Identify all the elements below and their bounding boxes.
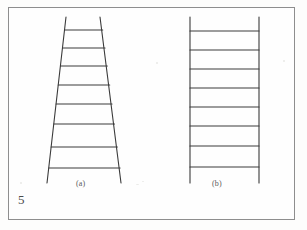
scan-speck (156, 62, 158, 64)
scan-speck (142, 181, 144, 182)
ladder-panel-b (190, 17, 259, 183)
ladder-a-rail-left (47, 17, 66, 183)
page-number: 5 (18, 192, 25, 208)
panel-label-b: (b) (212, 179, 222, 188)
scan-speck (20, 182, 22, 184)
ladder-panel-a (47, 17, 121, 183)
scan-speck (136, 184, 139, 185)
scan-speck (283, 60, 285, 62)
panel-label-a: (a) (76, 179, 85, 188)
figure-page: (a) (b) 5 (0, 0, 307, 230)
ladder-figure-drawing (0, 0, 307, 230)
ladder-a-rail-right (100, 17, 121, 183)
